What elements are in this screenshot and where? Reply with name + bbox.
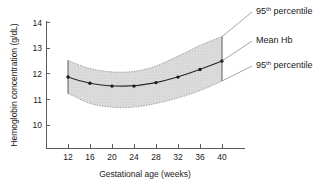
leader-line-upper-percentile (222, 12, 252, 37)
y-tick-label: 13 (33, 43, 43, 53)
chart-figure: 14 13 12 11 10 Hemoglobin concentration … (0, 0, 325, 194)
data-point-marker (110, 84, 113, 87)
legend-mean-base: Mean Hb (256, 35, 293, 45)
legend-upper-rest: percentile (271, 6, 313, 16)
data-point-marker (88, 82, 91, 85)
x-tick-label: 20 (107, 152, 117, 162)
x-tick-label: 12 (63, 152, 73, 162)
x-tick-label: 28 (151, 152, 161, 162)
legend-item-upper-percentile: 95th percentile (256, 6, 313, 16)
data-point-marker (176, 75, 179, 78)
legend-upper-base: 95 (256, 6, 266, 16)
hemoglobin-chart-svg: 14 13 12 11 10 Hemoglobin concentration … (0, 0, 325, 194)
legend-item-mean: Mean Hb (256, 35, 293, 45)
x-tick-label: 16 (85, 152, 95, 162)
data-point-marker (154, 81, 157, 84)
legend: 95th percentile Mean Hb 95th percentile (256, 6, 313, 70)
y-tick-label: 12 (33, 69, 43, 79)
percentile-band (68, 37, 222, 108)
x-tick-label: 24 (129, 152, 139, 162)
leader-line-lower-percentile (222, 66, 252, 81)
leader-line-mean (222, 41, 252, 61)
y-axis-title: Hemoglobin concentration (g/dL) (9, 23, 19, 146)
x-tick-label: 36 (195, 152, 205, 162)
y-tick-label: 14 (33, 18, 43, 28)
y-axis: 14 13 12 11 10 Hemoglobin concentration … (9, 18, 50, 148)
x-tick-label: 32 (173, 152, 183, 162)
x-tick-label: 40 (217, 152, 227, 162)
y-tick-label: 10 (33, 120, 43, 130)
y-tick-label: 11 (33, 95, 42, 105)
data-point-marker (198, 68, 201, 71)
data-point-marker (66, 75, 69, 78)
x-axis: 12 16 20 24 28 32 36 40 Gestational age … (46, 144, 245, 179)
legend-lower-rest: percentile (271, 60, 313, 70)
legend-lower-base: 95 (256, 60, 266, 70)
legend-leader-lines (222, 12, 252, 81)
data-point-marker (132, 84, 135, 87)
x-axis-title: Gestational age (weeks) (99, 169, 191, 179)
legend-item-lower-percentile: 95th percentile (256, 60, 313, 70)
band-fill-area (68, 37, 222, 108)
